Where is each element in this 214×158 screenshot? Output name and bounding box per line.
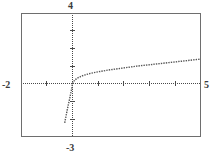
y-axis-min-label: -3 — [66, 143, 74, 153]
y-axis-max-label: 4 — [68, 1, 73, 11]
plot-frame-border — [21, 13, 201, 137]
calculator-graph-screenshot: 4 -3 -2 5 — [0, 0, 214, 158]
x-axis-min-label: -2 — [2, 80, 10, 90]
x-axis-max-label: 5 — [204, 80, 209, 90]
